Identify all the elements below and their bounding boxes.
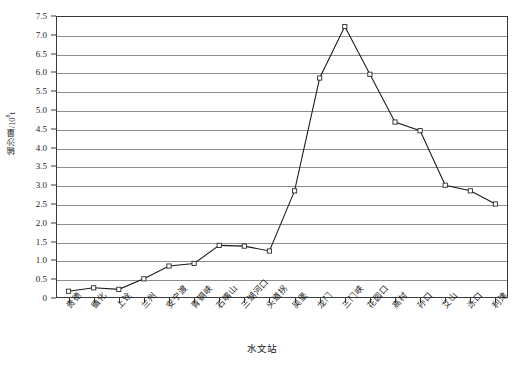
data-point-marker (92, 286, 96, 290)
data-point-marker (318, 76, 322, 80)
data-point-marker (167, 264, 171, 268)
y-tick-label: 6.5 (36, 49, 47, 59)
y-tick-label: 3.0 (36, 180, 47, 190)
y-tick-label: 7.5 (36, 11, 47, 21)
y-tick-label: 7.0 (36, 30, 47, 40)
data-point-marker (192, 261, 196, 265)
y-tick-label: 6.0 (36, 67, 47, 77)
y-tick-label: 0.5 (36, 274, 47, 284)
y-tick-label: 2.5 (36, 199, 47, 209)
y-axis-ticks: 7.57.06.56.05.55.04.54.03.53.02.52.01.51… (0, 16, 56, 298)
data-point-marker (418, 129, 422, 133)
data-point-marker (343, 24, 347, 28)
y-tick-label: 4.0 (36, 143, 47, 153)
sediment-load-line-chart: 输沙量/108t 7.57.06.56.05.55.04.54.03.53.02… (0, 0, 523, 366)
data-series (56, 16, 508, 298)
y-tick-label: 1.0 (36, 255, 47, 265)
data-point-marker (292, 189, 296, 193)
data-point-marker (443, 183, 447, 187)
data-point-marker (368, 72, 372, 76)
data-point-marker (142, 277, 146, 281)
y-tick-label: 4.5 (36, 124, 47, 134)
data-point-marker (493, 202, 497, 206)
data-point-marker (393, 120, 397, 124)
data-point-marker (217, 243, 221, 247)
y-tick-label: 1.5 (36, 237, 47, 247)
y-tick-label: 3.5 (36, 161, 47, 171)
data-point-marker (242, 244, 246, 248)
data-point-marker (468, 189, 472, 193)
data-point-marker (267, 249, 271, 253)
y-tick-label: 5.5 (36, 86, 47, 96)
series-line (69, 27, 496, 292)
y-tick-label: 5.0 (36, 105, 47, 115)
data-point-marker (117, 287, 121, 291)
x-axis-title: 水文站 (0, 341, 523, 355)
y-tick-label: 2.0 (36, 218, 47, 228)
